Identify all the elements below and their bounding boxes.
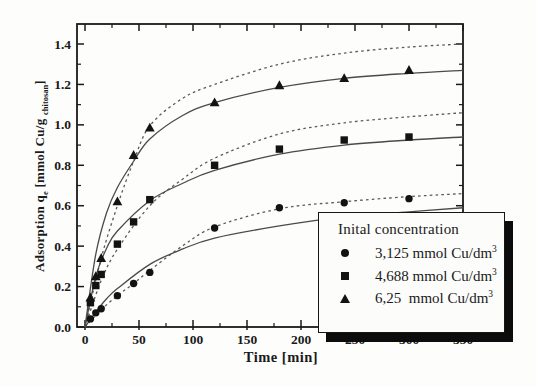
legend-label-625: 6,25 mmol Cu/dm (375, 290, 488, 306)
y-axis-label: Adsorption qe [mmol Cu/g chitosan] (32, 21, 54, 331)
legend-label-3125: 3,125 mmol Cu/dm (375, 245, 492, 261)
data-point-square (341, 136, 348, 143)
legend-item-3125: 3,125 mmol Cu/dm3 (338, 242, 504, 265)
data-point-square (130, 218, 137, 225)
y-tick-label: 0.2 (54, 279, 71, 294)
data-point-circle (211, 224, 218, 231)
data-point-triangle (275, 80, 285, 89)
data-point-triangle (129, 150, 139, 159)
x-tick-label: 150 (237, 332, 258, 347)
x-tick-label: 200 (291, 332, 312, 347)
legend-box: Inital concentration 3,125 mmol Cu/dm3 4… (318, 212, 505, 333)
legend-label-3125-sup: 3 (492, 244, 497, 254)
x-tick-label: 50 (132, 332, 146, 347)
data-point-triangle (96, 253, 106, 262)
data-point-triangle (404, 65, 414, 74)
data-point-circle (98, 305, 105, 312)
y-tick-label: 0.0 (54, 320, 71, 335)
legend-title: Inital concentration (338, 221, 504, 238)
y-axis-label-text: Adsorption q (32, 195, 47, 272)
data-point-circle (405, 195, 412, 202)
adsorption-kinetics-figure: 0501001502002503003500.00.20.40.60.81.01… (0, 0, 536, 387)
y-tick-label: 0.8 (54, 158, 71, 173)
legend-label-625-sup: 3 (488, 289, 493, 299)
triangle-marker-icon (340, 294, 350, 303)
legend-item-4688: 4,688 mmol Cu/dm3 (338, 265, 504, 288)
data-point-square (146, 196, 153, 203)
data-point-square (92, 282, 99, 289)
x-tick-label: 250 (345, 332, 366, 347)
circle-marker-icon (341, 249, 349, 257)
legend-label-4688: 4,688 mmol Cu/dm (375, 268, 492, 284)
data-point-circle (87, 315, 94, 322)
data-point-circle (341, 199, 348, 206)
y-tick-label: 1.0 (54, 117, 71, 132)
data-point-square (405, 133, 412, 140)
y-axis-label-close-bracket: ] (32, 80, 47, 85)
x-tick-label: 300 (399, 332, 420, 347)
y-axis-label-sub-chitosan: chitosan (40, 85, 50, 115)
y-tick-label: 0.6 (54, 198, 71, 213)
data-point-square (276, 145, 283, 152)
data-point-square (211, 162, 218, 169)
y-tick-label: 0.4 (54, 239, 71, 254)
y-axis-label-sub-e: e (40, 191, 50, 195)
data-point-square (114, 240, 121, 247)
data-point-circle (276, 204, 283, 211)
legend-item-625: 6,25 mmol Cu/dm3 (338, 287, 504, 310)
data-point-circle (146, 269, 153, 276)
data-point-triangle (145, 123, 155, 132)
data-point-triangle (113, 196, 123, 205)
data-point-circle (130, 280, 137, 287)
data-point-triangle (86, 292, 96, 301)
legend-label-4688-sup: 3 (492, 267, 497, 277)
x-tick-label: 100 (183, 332, 204, 347)
x-axis-label: Time [min] (221, 349, 341, 366)
y-tick-label: 1.2 (54, 77, 71, 92)
x-tick-label: 0 (82, 332, 89, 347)
square-marker-icon (341, 272, 349, 280)
x-tick-label: 350 (453, 332, 474, 347)
y-axis-label-units: [mmol Cu/g (32, 115, 47, 191)
data-point-circle (114, 292, 121, 299)
y-tick-label: 1.4 (54, 37, 71, 52)
